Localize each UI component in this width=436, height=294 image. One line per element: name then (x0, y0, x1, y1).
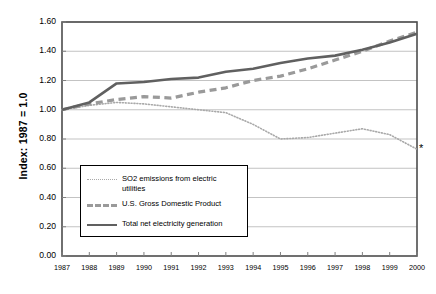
legend-label-generation: Total net electricity generation (122, 219, 222, 229)
chart-legend: SO2 emissions from electric utilities U.… (80, 165, 248, 237)
legend-swatch-dotted-icon (87, 175, 117, 185)
legend-item-gdp: U.S. Gross Domestic Product (87, 199, 221, 210)
legend-label-so2: SO2 emissions from electric utilities (122, 174, 240, 193)
legend-item-so2: SO2 emissions from electric utilities (87, 174, 240, 193)
plot-area: * (0, 0, 436, 294)
series-line-2 (62, 34, 417, 110)
legend-swatch-solid-icon (87, 220, 117, 230)
so2-endpoint-asterisk: * (419, 142, 424, 154)
legend-swatch-dashed-icon (87, 200, 117, 210)
legend-item-generation: Total net electricity generation (87, 219, 222, 230)
legend-label-gdp: U.S. Gross Domestic Product (122, 199, 221, 209)
chart-figure: Index: 1987 = 1.0 0.000.200.400.600.801.… (0, 0, 436, 294)
